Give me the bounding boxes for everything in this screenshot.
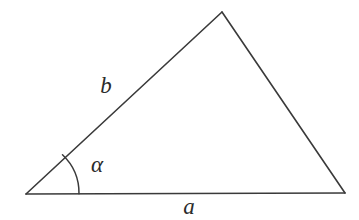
angle-label-alpha: α [91, 152, 104, 177]
angle-arc-alpha [63, 155, 80, 194]
side-label-b: b [100, 73, 112, 98]
triangle-right-side [222, 12, 345, 193]
triangle-diagram: b α a [0, 0, 359, 220]
triangle-left-side [26, 12, 222, 194]
triangle-diagram-canvas: b α a [0, 0, 359, 220]
side-label-a: a [183, 194, 195, 219]
